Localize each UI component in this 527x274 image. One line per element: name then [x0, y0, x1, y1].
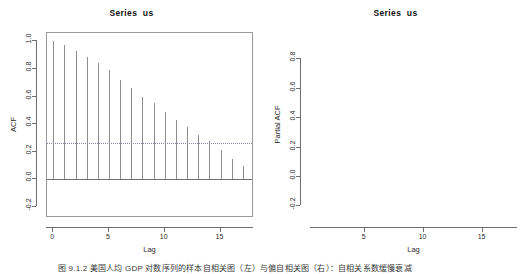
pacf-x-tick-label: 15 — [472, 233, 492, 240]
pacf-x-tick — [364, 228, 365, 232]
acf-plot-area — [46, 32, 253, 217]
acf-y-tick — [32, 68, 36, 69]
pacf-x-tick — [482, 228, 483, 232]
pacf-y-tick-label: 0.6 — [289, 76, 296, 96]
figure-caption: 图 9.1.2 美国人均 GDP 对数序列的样本自相关图（左）与偏自相关图（右）… — [0, 262, 527, 274]
pacf-y-axis-title: Partial ACF — [273, 89, 282, 159]
acf-stem — [187, 127, 188, 180]
acf-y-tick — [32, 206, 36, 207]
pacf-y-tick — [296, 147, 300, 148]
pacf-y-tick — [296, 176, 300, 177]
acf-y-tick — [32, 96, 36, 97]
pacf-x-tick — [423, 228, 424, 232]
pacf-x-tick-label: 10 — [413, 233, 433, 240]
acf-stem — [221, 150, 222, 179]
pacf-panel-title: Series us — [264, 8, 527, 18]
acf-stem — [209, 141, 210, 180]
acf-panel-title: Series us — [0, 8, 263, 18]
acf-x-tick-label: 5 — [98, 233, 118, 240]
acf-y-tick — [32, 40, 36, 41]
acf-stem — [131, 88, 132, 179]
acf-stem — [87, 57, 88, 180]
acf-stem — [142, 97, 143, 180]
pacf-y-tick-label: 0.0 — [289, 164, 296, 184]
acf-x-tick-label: 15 — [210, 233, 230, 240]
acf-x-tick — [220, 228, 221, 232]
pacf-y-tick — [296, 88, 300, 89]
acf-stem — [120, 80, 121, 179]
acf-y-tick-label: 0.6 — [25, 84, 32, 104]
pacf-y-tick — [296, 205, 300, 206]
acf-x-axis-line — [46, 227, 253, 228]
pacf-panel: Series us 51015-0.20.00.20.40.60.8LagPar… — [264, 0, 527, 252]
acf-panel: Series us 051015-0.20.00.20.40.60.81.0La… — [0, 0, 263, 252]
acf-stem — [154, 103, 155, 179]
acf-y-tick-label: 0.2 — [25, 139, 32, 159]
pacf-y-tick-label: 0.4 — [289, 106, 296, 126]
acf-stem — [98, 63, 99, 179]
pacf-x-axis-line — [310, 227, 517, 228]
acf-stem — [232, 159, 233, 180]
acf-confidence-band-lower — [47, 216, 252, 217]
acf-y-axis-title: ACF — [9, 89, 18, 159]
acf-y-axis-line — [36, 40, 37, 206]
pacf-y-tick — [296, 58, 300, 59]
acf-stem — [64, 45, 65, 179]
acf-x-axis-title: Lag — [46, 245, 253, 254]
acf-y-tick — [32, 151, 36, 152]
acf-confidence-band-upper — [47, 143, 252, 144]
pacf-y-tick-label: 0.2 — [289, 135, 296, 155]
pacf-x-tick-label: 5 — [354, 233, 374, 240]
acf-y-tick-label: 1.0 — [25, 29, 32, 49]
acf-x-tick — [52, 228, 53, 232]
figure-caption-text: 图 9.1.2 美国人均 GDP 对数序列的样本自相关图（左）与偏自相关图（右）… — [58, 262, 412, 273]
acf-y-tick-label: 0.8 — [25, 56, 32, 76]
acf-y-tick — [32, 178, 36, 179]
pacf-y-tick-label: 0.8 — [289, 47, 296, 67]
pacf-y-tick-label: -0.2 — [289, 194, 296, 214]
figure-root: Series us 051015-0.20.00.20.40.60.81.0La… — [0, 0, 527, 274]
acf-stem — [176, 120, 177, 179]
acf-y-tick-label: -0.2 — [25, 195, 32, 215]
acf-y-tick — [32, 123, 36, 124]
acf-stem — [243, 166, 244, 180]
pacf-y-tick — [296, 117, 300, 118]
acf-stem — [53, 41, 54, 179]
acf-stem — [109, 70, 110, 179]
pacf-x-axis-title: Lag — [310, 245, 517, 254]
acf-zero-line — [47, 179, 252, 180]
acf-stem — [198, 135, 199, 179]
acf-y-tick-label: 0.4 — [25, 112, 32, 132]
acf-x-tick — [108, 228, 109, 232]
acf-x-tick-label: 0 — [42, 233, 62, 240]
acf-stem — [165, 112, 166, 180]
acf-y-tick-label: 0.0 — [25, 167, 32, 187]
acf-x-tick-label: 10 — [154, 233, 174, 240]
acf-x-tick — [164, 228, 165, 232]
pacf-y-axis-line — [300, 58, 301, 205]
acf-stem — [76, 51, 77, 179]
